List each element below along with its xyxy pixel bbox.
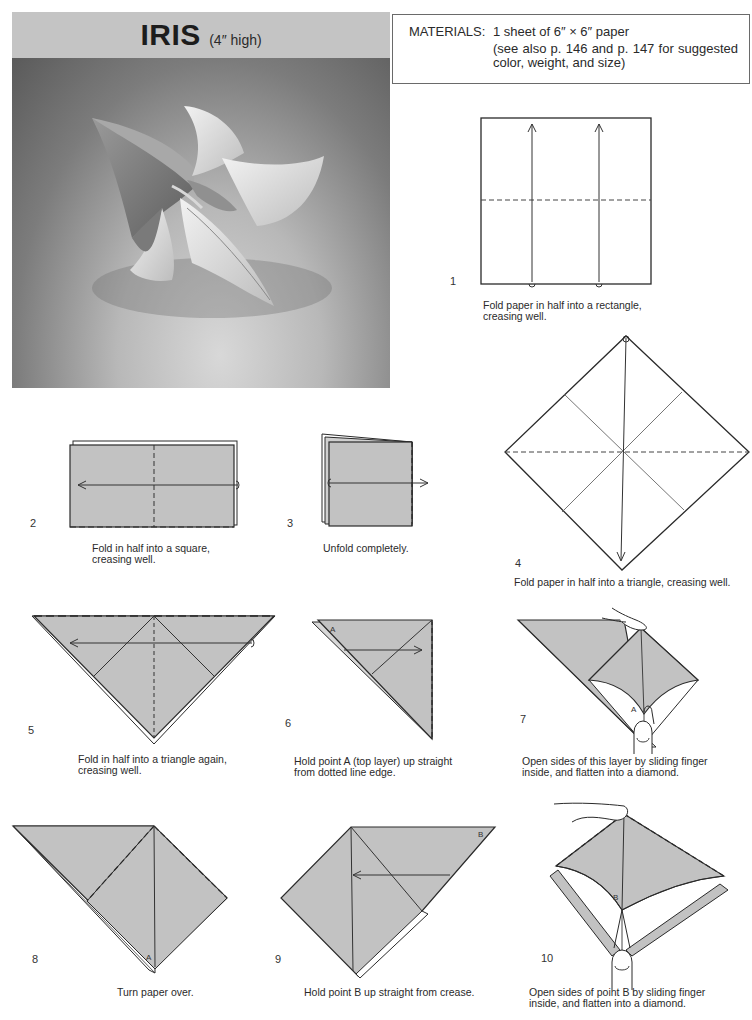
step-4-number: 4 [515, 557, 521, 569]
materials-box: MATERIALS: 1 sheet of 6″ × 6″ paper (see… [392, 14, 750, 84]
page-title: IRIS [140, 18, 200, 51]
step-10-diagram: B [548, 800, 748, 990]
step-7-number: 7 [520, 713, 526, 725]
point-b-label: B [478, 830, 483, 839]
step-5-number: 5 [28, 724, 34, 736]
step-10-number: 10 [541, 952, 553, 964]
step-4-caption: Fold paper in half into a triangle, crea… [514, 577, 731, 588]
step-9-caption: Hold point B up straight from crease. [304, 987, 474, 998]
point-a-label: A [146, 953, 152, 962]
step-2-diagram [68, 440, 248, 530]
point-a-label: A [631, 705, 637, 714]
page-subtitle: (4″ high) [209, 32, 261, 48]
step-5-diagram [32, 614, 282, 749]
step-1-number: 1 [450, 275, 456, 287]
iris-illustration [12, 58, 390, 388]
step-9-number: 9 [275, 953, 281, 965]
point-a-label: A [330, 625, 336, 634]
step-6-diagram: A [312, 618, 442, 748]
step-8-caption: Turn paper over. [117, 987, 194, 998]
step-8-diagram: A [12, 825, 232, 975]
step-8-number: 8 [32, 953, 38, 965]
step-2-caption: Fold in half into a square, creasing wel… [92, 543, 210, 565]
step-4-diagram [504, 334, 752, 574]
step-9-diagram: B [280, 826, 500, 976]
step-2-number: 2 [30, 517, 36, 529]
step-5-caption: Fold in half into a triangle again, crea… [78, 754, 227, 776]
step-10-caption: Open sides of point B by sliding finger … [529, 987, 705, 1009]
materials-note: (see also p. 146 and p. 147 for suggeste… [493, 42, 738, 70]
step-6-number: 6 [285, 717, 291, 729]
step-3-caption: Unfold completely. [323, 543, 409, 554]
materials-paper: 1 sheet of 6″ × 6″ paper [493, 24, 629, 39]
materials-label: MATERIALS: [409, 24, 485, 39]
step-3-diagram [320, 432, 440, 532]
step-6-caption: Hold point A (top layer) up straight fro… [294, 756, 452, 778]
point-b-label: B [613, 893, 618, 902]
step-1-diagram [480, 116, 660, 286]
step-7-caption: Open sides of this layer by sliding fing… [522, 756, 708, 778]
step-7-diagram: A [516, 604, 752, 754]
step-3-number: 3 [287, 517, 293, 529]
step-1-caption: Fold paper in half into a rectangle, cre… [483, 300, 642, 322]
iris-photo [12, 58, 390, 388]
title-band: IRIS (4″ high) [12, 12, 390, 58]
